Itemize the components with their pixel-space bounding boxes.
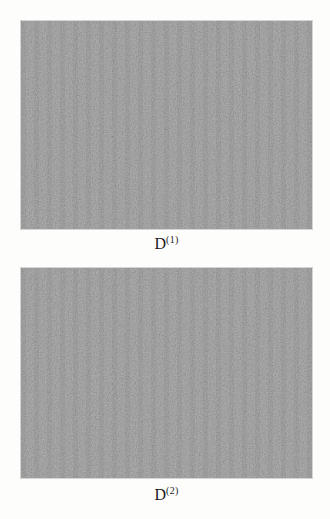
noise-image-panel-d2 [21, 268, 312, 478]
noise-image-d2 [21, 268, 312, 478]
caption-d2-superscript: (2) [166, 485, 179, 496]
caption-d2-symbol: D [154, 486, 166, 503]
caption-d1: D(1) [21, 235, 312, 252]
noise-grain-layer [21, 268, 312, 478]
noise-grain-layer [21, 21, 312, 229]
noise-image-panel-d1 [21, 21, 312, 229]
noise-image-d1 [21, 21, 312, 229]
caption-d2: D(2) [21, 486, 312, 503]
paper-figure-page: D(1) D(2) [0, 0, 330, 519]
caption-d1-superscript: (1) [166, 234, 179, 245]
caption-d1-symbol: D [154, 235, 166, 252]
